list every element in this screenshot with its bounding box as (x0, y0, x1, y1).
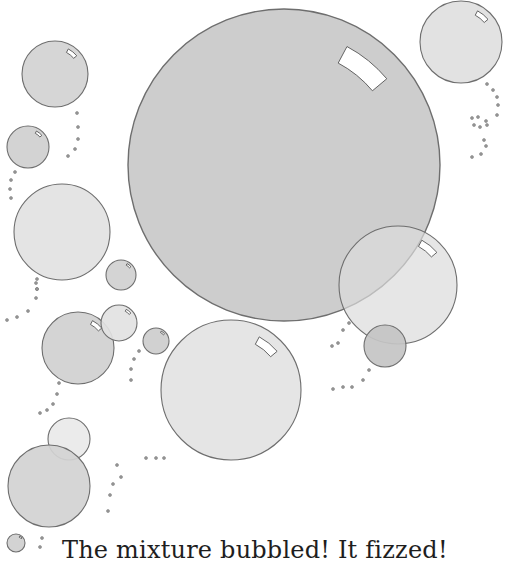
page-caption: The mixture bubbled! It fizzed! (62, 536, 448, 562)
fizz-dot (496, 114, 499, 117)
fizz-dot (112, 483, 115, 486)
bubble-center-bottom (161, 320, 301, 460)
fizz-dot (130, 379, 133, 382)
fizz-dot (483, 139, 486, 142)
fizz-dot (337, 342, 340, 345)
fizz-dot (368, 369, 371, 372)
fizz-dot (485, 145, 488, 148)
fizz-dot (342, 386, 345, 389)
fizz-dot (77, 138, 80, 141)
fizz-dot (362, 379, 365, 382)
fizz-dot (109, 494, 112, 497)
bubble-top-right (420, 1, 502, 83)
fizz-dot (74, 148, 77, 151)
fizz-dot (9, 188, 12, 191)
bubble-tiny-1 (106, 260, 136, 290)
fizz-dot (479, 126, 482, 129)
bubble-right-small (364, 325, 406, 367)
fizz-dot (480, 153, 483, 156)
fizz-dot (163, 457, 166, 460)
fizz-dot (145, 457, 148, 460)
fizz-dot (14, 171, 17, 174)
fizz-dot (130, 368, 133, 371)
fizz-dot (67, 155, 70, 158)
fizz-dot (342, 329, 345, 332)
bubble-tiny-2 (143, 328, 169, 354)
fizz-dot (351, 386, 354, 389)
fizz-dot (492, 89, 495, 92)
fizz-dot (27, 310, 30, 313)
fizz-dot (331, 345, 334, 348)
fizz-dot (56, 393, 59, 396)
fizz-dot (120, 476, 123, 479)
bubble-left-top (22, 41, 88, 107)
bubble-left-large (14, 184, 110, 280)
fizz-dot (36, 278, 39, 281)
fizz-dot (46, 409, 49, 412)
fizz-dot (41, 537, 44, 540)
bubble-bottom-left (8, 445, 90, 527)
fizz-dot (77, 126, 80, 129)
fizz-dot (486, 124, 489, 127)
fizz-dot (10, 179, 13, 182)
bubble-mid-left-2 (101, 305, 137, 341)
fizz-dot (473, 124, 476, 127)
fizz-dot (348, 322, 351, 325)
fizz-dot (35, 297, 38, 300)
fizz-dot (486, 83, 489, 86)
fizz-dot (496, 96, 499, 99)
fizz-dot (58, 382, 61, 385)
fizz-dot (497, 104, 500, 107)
bubble-right-mid (339, 226, 457, 344)
fizz-dot (36, 288, 39, 291)
fizz-dot (471, 156, 474, 159)
fizz-dot (116, 464, 119, 467)
bubble-group (7, 1, 502, 552)
fizz-dot (52, 403, 55, 406)
fizz-dot (138, 350, 141, 353)
fizz-dot (107, 510, 110, 513)
fizz-dot (485, 120, 488, 123)
fizz-dot (10, 197, 13, 200)
fizz-dot (76, 112, 79, 115)
fizz-dot (39, 546, 42, 549)
fizz-dot (477, 116, 480, 119)
fizz-dot (6, 319, 9, 322)
fizz-dot (16, 316, 19, 319)
fizz-dot (155, 457, 158, 460)
fizz-dot (471, 117, 474, 120)
bubble-tiny-corner (7, 534, 25, 552)
fizz-dot (39, 412, 42, 415)
fizz-dot (332, 388, 335, 391)
bubble-left-small (7, 126, 49, 168)
fizz-dot (35, 282, 38, 285)
fizz-dot (133, 358, 136, 361)
